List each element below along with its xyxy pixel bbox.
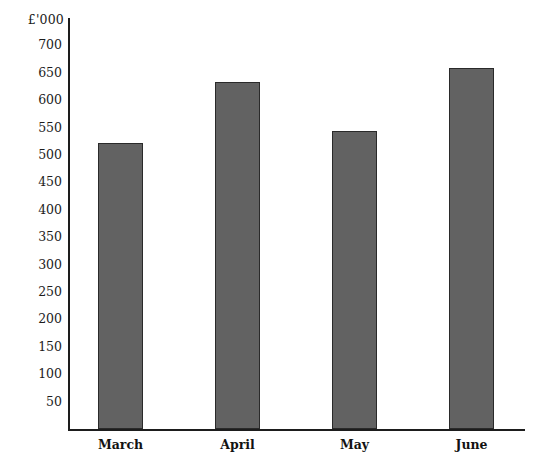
y-axis-tick-label: 300 bbox=[6, 259, 62, 271]
x-axis-line bbox=[68, 429, 525, 431]
y-axis-tick-label: 100 bbox=[6, 368, 62, 380]
y-axis-tick-label: 50 bbox=[6, 396, 62, 408]
x-axis-label-april: April bbox=[183, 437, 293, 452]
y-axis-tick-label: 400 bbox=[6, 204, 62, 216]
y-axis-tick-label: 600 bbox=[6, 94, 62, 106]
y-axis-tick-label: 350 bbox=[6, 231, 62, 243]
bar-chart: £'000 5010015020025030035040045050055060… bbox=[0, 0, 533, 466]
y-axis-tick-label: 500 bbox=[6, 149, 62, 161]
plot-area bbox=[70, 18, 525, 429]
y-axis-tick-label: 150 bbox=[6, 341, 62, 353]
y-axis-tick-label: 700 bbox=[6, 39, 62, 51]
y-axis-unit-label: £'000 bbox=[8, 12, 64, 27]
bar-march bbox=[98, 143, 143, 429]
y-axis-tick-label: 550 bbox=[6, 122, 62, 134]
x-axis-label-may: May bbox=[300, 437, 410, 452]
bar-april bbox=[215, 82, 260, 429]
y-axis-tick-label: 200 bbox=[6, 313, 62, 325]
bar-may bbox=[332, 131, 377, 429]
y-axis-tick-label: 450 bbox=[6, 176, 62, 188]
x-axis-label-march: March bbox=[66, 437, 176, 452]
bar-june bbox=[449, 68, 494, 429]
y-axis-tick-label: 250 bbox=[6, 286, 62, 298]
x-axis-label-june: June bbox=[417, 437, 527, 452]
y-axis-tick-label: 650 bbox=[6, 67, 62, 79]
